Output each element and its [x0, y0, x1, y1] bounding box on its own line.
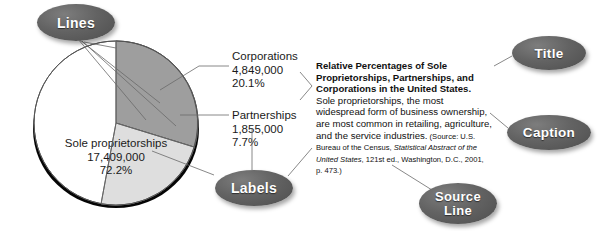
callout-bubble-labels[interactable]: Labels: [215, 170, 293, 206]
pie-label-partnerships-value: 1,855,000: [232, 123, 297, 137]
pie-label-corporations-name: Corporations: [232, 50, 298, 64]
caption-title: Relative Percentages of Sole Proprietors…: [316, 60, 474, 94]
pie-chart-svg: [0, 0, 240, 231]
callout-bubble-title-label: Title: [534, 46, 563, 61]
leader-line-labels-2: [288, 148, 312, 176]
callout-bubble-title[interactable]: Title: [512, 36, 586, 70]
callout-bubble-lines[interactable]: Lines: [37, 4, 115, 41]
pie-label-corporations: Corporations 4,849,000 20.1%: [232, 50, 298, 91]
leader-bracket-right: [300, 72, 312, 100]
callout-bubble-labels-label: Labels: [231, 180, 277, 196]
leader-line-title: [494, 56, 512, 66]
pie-label-partnerships-name: Partnerships: [232, 109, 297, 123]
pie-label-sole-value: 17,409,000: [52, 151, 180, 165]
callout-bubble-source-line[interactable]: Source Line: [419, 183, 497, 224]
pie-label-corporations-value: 4,849,000: [232, 64, 298, 78]
figure-page: Corporations 4,849,000 20.1% Partnership…: [0, 0, 602, 231]
pie-chart: [0, 0, 240, 231]
pie-label-sole-name: Sole proprietorships: [52, 137, 180, 151]
callout-bubble-source-line-label: Source Line: [435, 190, 481, 218]
leader-line-caption: [490, 113, 508, 128]
callout-bubble-caption[interactable]: Caption: [507, 115, 591, 150]
callout-bubble-caption-label: Caption: [523, 125, 575, 140]
caption-block: Relative Percentages of Sole Proprietors…: [316, 60, 492, 176]
pie-label-partnerships: Partnerships 1,855,000 7.7%: [232, 109, 297, 150]
callout-bubble-lines-label: Lines: [57, 15, 95, 31]
pie-label-sole-percent: 72.2%: [52, 164, 180, 178]
pie-label-corporations-percent: 20.1%: [232, 77, 298, 91]
pie-label-partnerships-percent: 7.7%: [232, 136, 297, 150]
pie-label-sole-proprietorships: Sole proprietorships 17,409,000 72.2%: [52, 137, 180, 178]
